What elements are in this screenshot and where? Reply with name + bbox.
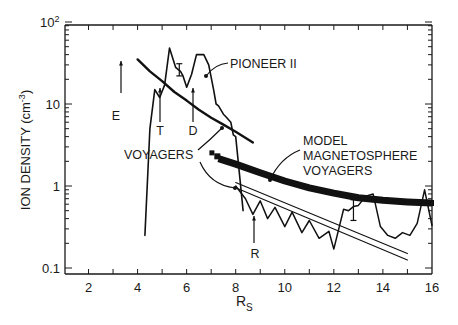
x-tick-label: 6 <box>183 280 190 295</box>
ion-density-chart: 2468101214160.1110102 ION DENSITY (cm-3)… <box>0 0 458 325</box>
series-line <box>145 48 243 235</box>
model-label-line3: VOYAGERS <box>303 164 372 178</box>
y-axis-title: ION DENSITY (cm-3) <box>17 90 33 210</box>
text-labels: PIONEER II VOYAGERS MODEL MAGNETOSPHERE … <box>112 57 418 261</box>
svg-text:ION DENSITY (cm-3): ION DENSITY (cm-3) <box>17 90 33 210</box>
x-tick-label: 16 <box>425 280 439 295</box>
voyagers-pointer-upper-icon <box>198 128 222 150</box>
x-tick-label: 14 <box>376 280 390 295</box>
x-tick-label: 10 <box>278 280 292 295</box>
y-tick-label: 1 <box>53 179 60 194</box>
y-tick-label: 0.1 <box>42 261 60 276</box>
model-label-line1: MODEL <box>303 134 348 148</box>
x-tick-label: 4 <box>134 280 141 295</box>
y-tick-label: 102 <box>40 14 59 30</box>
x-tick-label: 12 <box>327 280 341 295</box>
svg-text:R: R <box>236 293 246 309</box>
model-label-line2: MAGNETOSPHERE <box>303 149 417 163</box>
label-D: D <box>188 124 197 138</box>
svg-text:S: S <box>246 302 253 313</box>
voyagers-label: VOYAGERS <box>124 148 193 162</box>
y-tick-label: 10 <box>46 97 60 112</box>
label-R: R <box>250 247 259 261</box>
pioneer-label: PIONEER II <box>230 57 297 71</box>
x-tick-label: 2 <box>85 280 92 295</box>
label-E: E <box>112 109 120 123</box>
x-axis-title: R S <box>236 293 253 313</box>
label-T: T <box>156 124 164 138</box>
